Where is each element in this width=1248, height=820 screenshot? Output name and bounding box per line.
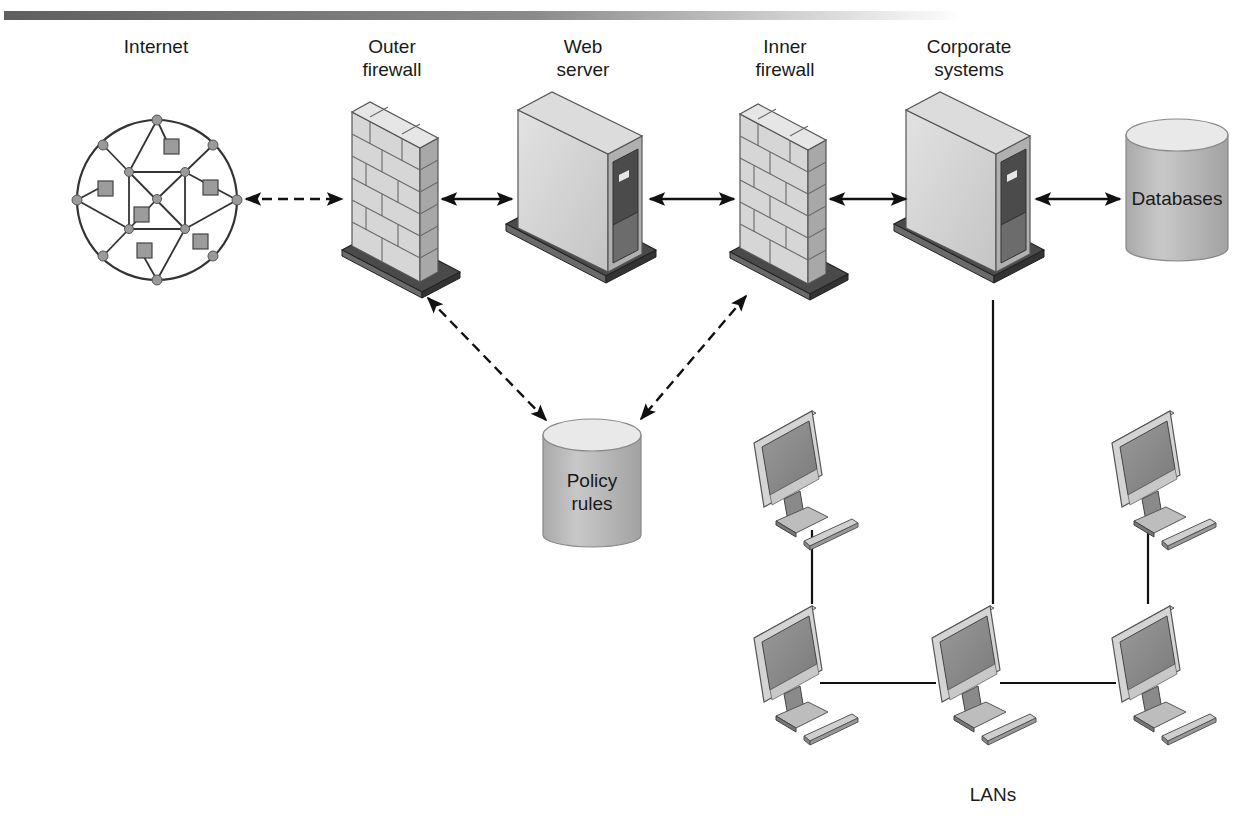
databases-cylinder-icon: Databases	[1126, 119, 1228, 261]
policy-rules-label-line1: Policy	[567, 470, 618, 491]
corporate-systems-server-icon	[894, 92, 1044, 283]
lan-workstation-top-right-icon	[1112, 411, 1216, 550]
lan-workstation-top-left-icon	[754, 411, 858, 550]
web-server-label-line1: Web	[564, 36, 603, 57]
header-gradient-bar	[4, 11, 964, 20]
lan-workstation-bottom-right-icon	[1112, 606, 1216, 745]
web-server-icon	[506, 92, 656, 283]
policy-rules-cylinder-icon: Policy rules	[543, 419, 641, 547]
outer-firewall-policy-link	[428, 298, 546, 420]
policy-rules-label-line2: rules	[571, 493, 612, 514]
outer-firewall-label-line1: Outer	[368, 36, 416, 57]
internet-globe-icon	[72, 115, 242, 285]
lans-label: LANs	[970, 784, 1016, 805]
corporate-systems-label-line1: Corporate	[927, 36, 1012, 57]
inner-firewall-label-line1: Inner	[763, 36, 807, 57]
inner-firewall-icon	[730, 104, 848, 300]
databases-label: Databases	[1132, 188, 1223, 209]
outer-firewall-label-line2: firewall	[362, 59, 421, 80]
web-server-label-line2: server	[557, 59, 610, 80]
network-diagram: Internet Outer firewall Web server Inner…	[0, 0, 1248, 820]
internet-label: Internet	[124, 36, 189, 57]
lan-workstation-bottom-left-icon	[754, 606, 858, 745]
inner-firewall-policy-link	[641, 296, 746, 419]
corporate-systems-label-line2: systems	[934, 59, 1004, 80]
inner-firewall-label-line2: firewall	[755, 59, 814, 80]
lan-workstation-bottom-center-icon	[932, 606, 1036, 745]
